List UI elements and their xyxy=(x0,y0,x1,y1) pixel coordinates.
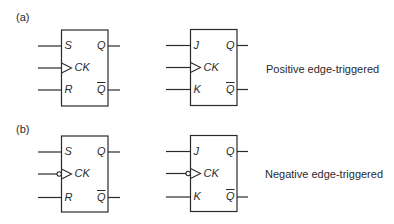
pin-label-qbar: Q xyxy=(97,192,106,203)
inversion-bubble-icon xyxy=(57,172,61,176)
pin-label-qbar: Q xyxy=(226,191,235,202)
pin-label-r: R xyxy=(65,192,73,203)
pin-label-ck: CK xyxy=(204,62,219,73)
inversion-bubble-icon xyxy=(186,171,190,175)
clock-edge-triangle-icon xyxy=(191,63,201,73)
pin-label-r: R xyxy=(65,84,73,95)
pin-label-qbar: Q xyxy=(226,84,235,95)
pin-label-j: J xyxy=(194,40,200,51)
pin-label-q: Q xyxy=(97,40,106,51)
clock-edge-triangle-icon xyxy=(62,63,72,73)
pin-label-qbar: Q xyxy=(97,84,106,95)
pin-label-ck: CK xyxy=(75,168,90,179)
clock-edge-triangle-icon xyxy=(191,169,201,179)
trigger-caption: Positive edge-triggered xyxy=(266,63,379,75)
clock-edge-triangle-icon xyxy=(62,169,72,179)
pin-label-q: Q xyxy=(97,146,106,157)
pin-label-q: Q xyxy=(226,40,235,51)
pin-label-s: S xyxy=(65,40,72,51)
pin-label-ck: CK xyxy=(204,168,219,179)
pin-label-k: K xyxy=(194,84,201,95)
pin-label-j: J xyxy=(194,146,200,157)
pin-label-ck: CK xyxy=(75,62,90,73)
part-label: (a) xyxy=(16,12,29,23)
pin-label-k: K xyxy=(194,191,201,202)
part-label: (b) xyxy=(16,124,29,135)
pin-label-q: Q xyxy=(226,146,235,157)
trigger-caption: Negative edge-triggered xyxy=(265,168,383,180)
pin-label-s: S xyxy=(65,146,72,157)
